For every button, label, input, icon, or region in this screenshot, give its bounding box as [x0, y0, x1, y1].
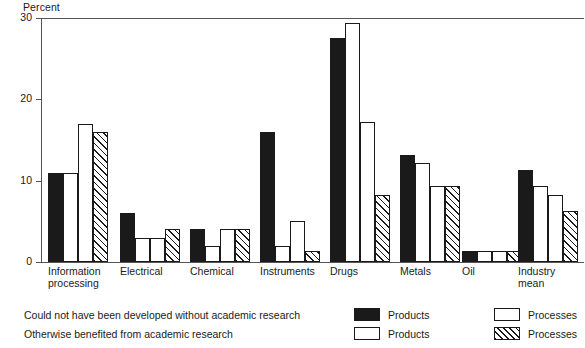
legend-row: Otherwise benefited from academic resear…: [24, 325, 574, 344]
bar: [360, 122, 375, 262]
bar-group-bars: [260, 18, 320, 262]
bar: [518, 170, 533, 262]
bar-group-bars: [120, 18, 180, 262]
y-axis-tick-label: 20: [0, 93, 32, 104]
legend-label: Processes: [528, 309, 577, 321]
bar: [135, 238, 150, 262]
legend-description: Otherwise benefited from academic resear…: [24, 328, 233, 340]
bar: [548, 195, 563, 263]
y-axis-tick-label: 30: [0, 12, 32, 23]
bar: [220, 229, 235, 262]
bar: [150, 238, 165, 262]
y-axis-tick-label: 10: [0, 175, 32, 186]
bar: [445, 186, 460, 262]
bar: [330, 38, 345, 262]
x-axis-category-label: Information processing: [48, 266, 101, 289]
bar: [63, 173, 78, 262]
bar-group-bars: [518, 18, 578, 262]
bar: [563, 211, 578, 262]
x-axis-category-label: Drugs: [330, 266, 358, 278]
bar: [430, 186, 445, 262]
legend-swatch-hatch: [494, 327, 520, 340]
x-axis-category-label: Industry mean: [518, 266, 584, 289]
bar: [275, 246, 290, 262]
bar-group-bars: [400, 18, 460, 262]
legend-swatch-open: [354, 327, 380, 340]
y-axis-tick: [36, 262, 41, 263]
legend-description: Could not have been developed without ac…: [24, 309, 300, 321]
bar: [400, 155, 415, 262]
bar: [415, 163, 430, 262]
bar: [375, 195, 390, 263]
bar: [462, 251, 477, 262]
bar-group-bars: [190, 18, 250, 262]
x-axis-line: [41, 262, 584, 263]
bar: [93, 132, 108, 262]
legend-label: Products: [388, 309, 429, 321]
x-axis-category-label: Chemical: [190, 266, 234, 278]
x-axis-category-label: Metals: [400, 266, 431, 278]
bar: [165, 229, 180, 262]
bar-group-bars: [48, 18, 108, 262]
bar-chart-figure: Percent 0102030 Information processingEl…: [0, 0, 585, 348]
legend-label: Products: [388, 328, 429, 340]
bar: [120, 213, 135, 262]
legend-label: Processes: [528, 328, 577, 340]
chart-legend: Could not have been developed without ac…: [24, 306, 574, 344]
y-axis-tick-label: 0: [0, 256, 32, 267]
bar: [290, 221, 305, 262]
x-axis-category-label: Instruments: [260, 266, 315, 278]
bar-group-bars: [462, 18, 522, 262]
bar: [78, 124, 93, 262]
bar: [305, 251, 320, 262]
bar: [492, 251, 507, 262]
legend-row: Could not have been developed without ac…: [24, 306, 574, 325]
bar: [190, 229, 205, 262]
bar-group-bars: [330, 18, 390, 262]
legend-swatch-solid: [354, 308, 380, 321]
bar: [235, 229, 250, 262]
bar: [260, 132, 275, 262]
legend-swatch-open: [494, 308, 520, 321]
bar: [48, 173, 63, 262]
bar: [477, 251, 492, 262]
x-axis-category-label: Electrical: [120, 266, 163, 278]
plot-area: Information processingElectricalChemical…: [41, 18, 584, 262]
bar: [345, 23, 360, 262]
bar: [533, 186, 548, 262]
x-axis-category-label: Oil: [462, 266, 475, 278]
bar: [205, 246, 220, 262]
